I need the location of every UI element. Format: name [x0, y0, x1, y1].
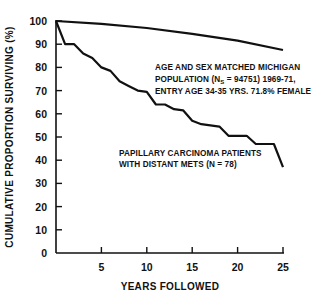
- x-tick-label: 5: [98, 261, 104, 273]
- y-axis-title: CUMULATIVE PROPORTION SURVIVING (%): [4, 26, 15, 247]
- y-tick-label: 30: [35, 177, 47, 189]
- y-ticks: 0102030405060708090100: [29, 15, 62, 259]
- y-tick-label: 100: [29, 15, 47, 27]
- y-tick-label: 20: [35, 201, 47, 213]
- survival-chart: 0102030405060708090100 510152025 CUMULAT…: [0, 0, 314, 297]
- y-tick-label: 80: [35, 61, 47, 73]
- population-label-line1: AGE AND SEX MATCHED MICHIGAN: [155, 63, 300, 72]
- papillary-label-line2: WITH DISTANT METS (N = 78): [119, 160, 237, 169]
- x-tick-label: 25: [277, 261, 289, 273]
- x-tick-label: 10: [141, 261, 153, 273]
- population-label-line3: ENTRY AGE 34-35 YRS. 71.8% FEMALE: [155, 87, 312, 96]
- y-tick-label: 40: [35, 154, 47, 166]
- y-tick-label: 10: [35, 224, 47, 236]
- x-axis-title: YEARS FOLLOWED: [121, 281, 220, 292]
- y-tick-label: 90: [35, 38, 47, 50]
- x-tick-label: 20: [232, 261, 244, 273]
- population-survival-line: [56, 21, 283, 50]
- papillary-label-line1: PAPILLARY CARCINOMA PATIENTS: [119, 149, 262, 158]
- x-ticks: 510152025: [98, 247, 289, 273]
- y-tick-label: 0: [41, 247, 47, 259]
- papillary-annotation: PAPILLARY CARCINOMA PATIENTS WITH DISTAN…: [119, 149, 262, 169]
- population-annotation: AGE AND SEX MATCHED MICHIGAN POPULATION …: [155, 63, 312, 96]
- population-label-line2: POPULATION (NS = 94751) 1969-71,: [155, 75, 296, 85]
- x-tick-label: 15: [186, 261, 198, 273]
- y-tick-label: 60: [35, 108, 47, 120]
- y-tick-label: 70: [35, 85, 47, 97]
- y-tick-label: 50: [35, 131, 47, 143]
